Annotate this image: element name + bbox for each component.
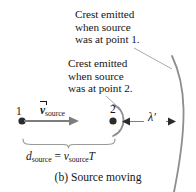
wavelength-arrow-head-right — [168, 118, 176, 126]
distance-subscript: source — [32, 155, 52, 164]
source-moving-doppler-figure: Crest emitted when source was at point 1… — [0, 0, 196, 192]
velocity-subscript: source — [45, 109, 65, 118]
point-2-label: 2 — [110, 103, 116, 115]
wavelength-label: λ′ — [148, 110, 156, 125]
velocity-arrow-head — [69, 117, 79, 126]
leader-line-crest-1 — [134, 48, 172, 69]
speed-subscript: source — [69, 155, 89, 164]
distance-brace — [23, 139, 115, 148]
point-1-label: 1 — [16, 105, 22, 117]
period-symbol: T — [89, 150, 95, 162]
figure-caption: (b) Source moving — [0, 171, 196, 184]
distance-equation: dsource = vsourceT — [26, 150, 95, 164]
velocity-source-label: vsource — [40, 104, 65, 118]
velocity-vector-symbol: v — [40, 104, 45, 116]
crest-2-annotation: Crest emitted when source was at point 2… — [68, 57, 133, 95]
source-point-2-dot — [109, 117, 116, 124]
crest-1-annotation: Crest emitted when source was at point 1… — [75, 8, 140, 46]
